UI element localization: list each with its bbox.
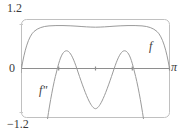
x-axis-pi-label: π (171, 61, 177, 73)
curve-f-double-prime (48, 51, 144, 119)
curve-f-double-prime-label: fʺ (39, 84, 47, 96)
curve-f (22, 26, 170, 69)
y-axis-max-label: 1.2 (7, 2, 22, 14)
figure-container: 1.2 −1.2 0 π f fʺ (0, 0, 187, 137)
curve-f-label: f (149, 40, 152, 52)
origin-label: 0 (9, 62, 15, 74)
y-axis-min-label: −1.2 (7, 118, 29, 130)
